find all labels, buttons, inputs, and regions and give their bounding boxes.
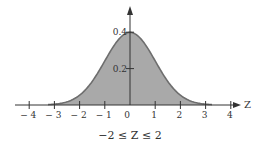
y-tick-label: 0.4 [113, 27, 128, 37]
chart-caption: −2 ≤ Z ≤ 2 [98, 129, 161, 142]
x-tick-label: 4 [227, 110, 233, 120]
x-tick-label: − 4 [20, 110, 36, 120]
x-tick-label: 3 [202, 110, 208, 120]
x-tick-label: − 1 [96, 110, 112, 120]
normal-distribution-chart: − 4− 3− 2− 101234 0.20.4 Z −2 ≤ Z ≤ 2 [0, 0, 262, 149]
x-tick-label: 0 [124, 110, 130, 120]
x-tick-label: 1 [151, 110, 157, 120]
x-tick-label: 2 [177, 110, 183, 120]
y-axis-arrow-icon [127, 6, 133, 15]
x-axis-arrow-icon [233, 102, 241, 108]
x-tick-label: − 3 [45, 110, 61, 120]
y-tick-label: 0.2 [113, 64, 127, 74]
x-axis-label: Z [244, 99, 251, 110]
x-tick-label: − 2 [71, 110, 87, 120]
